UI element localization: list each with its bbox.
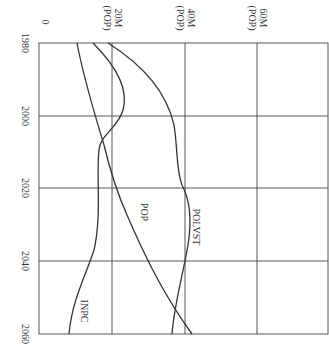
year-axis-labels: 1980 2000 2020 2040 2060 bbox=[20, 33, 31, 344]
tick-label-40m: 40M bbox=[186, 9, 197, 28]
tick-label-2020: 2020 bbox=[20, 178, 31, 198]
tick-label-2040: 2040 bbox=[20, 251, 31, 271]
value-axis-labels: 0 20M (POP) 40M (POP) 60M (POP) bbox=[40, 5, 269, 30]
tick-label-20m: 20M bbox=[113, 9, 124, 28]
tick-label-2060: 2060 bbox=[20, 324, 31, 344]
tick-label-0: 0 bbox=[40, 20, 51, 25]
tick-sublabel-60m: (POP) bbox=[246, 5, 258, 30]
label-pop: POP bbox=[139, 203, 150, 222]
tick-sublabel-40m: (POP) bbox=[174, 5, 186, 30]
tick-label-1980: 1980 bbox=[20, 33, 31, 53]
label-polvst: POLVST bbox=[191, 209, 202, 246]
population-chart: 0 20M (POP) 40M (POP) 60M (POP) 1980 200… bbox=[0, 0, 329, 347]
label-inpc: INPC bbox=[79, 300, 90, 323]
tick-sublabel-20m: (POP) bbox=[101, 5, 113, 30]
tick-label-60m: 60M bbox=[258, 9, 269, 28]
tick-label-2000: 2000 bbox=[20, 106, 31, 126]
